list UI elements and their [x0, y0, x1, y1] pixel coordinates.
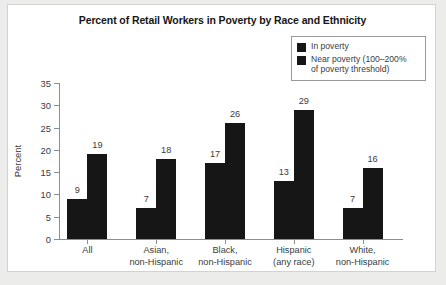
- legend-swatch-icon: [297, 43, 306, 52]
- x-axis-category-label: Asian,non-Hispanic: [129, 245, 183, 269]
- x-axis-tick: [87, 239, 88, 244]
- y-axis-tick: [54, 172, 59, 173]
- y-axis-tick-label: 5: [46, 211, 51, 222]
- bar: [225, 123, 245, 239]
- y-axis-tick-label: 0: [46, 234, 51, 245]
- y-axis-tick-label: 35: [41, 78, 51, 89]
- x-axis-category-label: White,non-Hispanic: [336, 245, 390, 269]
- x-axis-line: [59, 239, 403, 240]
- x-axis-tick: [225, 239, 226, 244]
- x-axis-tick: [156, 239, 157, 244]
- bar-value-label: 29: [299, 96, 309, 106]
- bar-value-label: 16: [367, 154, 377, 164]
- bar: [363, 168, 383, 239]
- chart-screenshot: Percent of Retail Workers in Poverty by …: [0, 0, 446, 285]
- legend-item-in-poverty: In poverty: [297, 41, 420, 52]
- chart-legend: In poverty Near poverty (100–200% of pov…: [291, 36, 426, 81]
- x-axis-label-line2: (any race): [273, 257, 314, 267]
- plot-area: Percent 05101520253035 919All718Asian,no…: [59, 83, 403, 239]
- bar: [67, 199, 87, 239]
- legend-label-line1: Near poverty (100–200%: [311, 54, 407, 64]
- legend-label: Near poverty (100–200% of poverty thresh…: [311, 54, 407, 75]
- x-axis-category-label: Hispanic(any race): [273, 245, 314, 269]
- y-axis-tick-label: 10: [41, 189, 51, 200]
- bar: [156, 159, 176, 239]
- bar-value-label: 26: [230, 109, 240, 119]
- bar: [87, 154, 107, 239]
- y-axis-tick-label: 30: [41, 100, 51, 111]
- bar-value-label: 18: [161, 145, 171, 155]
- x-axis-label-line1: Black,: [212, 245, 237, 255]
- y-axis-title: Percent: [12, 145, 23, 177]
- x-axis-label-line1: Asian,: [143, 245, 169, 255]
- y-axis-tick: [54, 150, 59, 151]
- x-axis-label-line2: non-Hispanic: [129, 257, 183, 267]
- chart-panel: Percent of Retail Workers in Poverty by …: [7, 4, 436, 272]
- x-axis-label-line1: White,: [350, 245, 376, 255]
- legend-item-near-poverty: Near poverty (100–200% of poverty thresh…: [297, 54, 420, 75]
- legend-label: In poverty: [311, 41, 349, 51]
- x-axis-tick: [363, 239, 364, 244]
- bar-value-label: 19: [92, 140, 102, 150]
- bar-value-label: 13: [279, 167, 289, 177]
- y-axis-tick: [54, 128, 59, 129]
- y-axis-tick: [54, 105, 59, 106]
- x-axis-label-line2: non-Hispanic: [198, 257, 252, 267]
- bar-value-label: 7: [144, 194, 149, 204]
- chart-title: Percent of Retail Workers in Poverty by …: [8, 14, 437, 26]
- x-axis-category-label: Black,non-Hispanic: [198, 245, 252, 269]
- legend-swatch-icon: [297, 56, 306, 65]
- bar: [343, 208, 363, 239]
- bar-value-label: 7: [350, 194, 355, 204]
- bar-value-label: 9: [75, 185, 80, 195]
- x-axis-label-line1: All: [82, 245, 92, 255]
- y-axis-tick: [54, 83, 59, 84]
- y-axis-line: [59, 83, 60, 239]
- bar: [136, 208, 156, 239]
- bar: [294, 110, 314, 239]
- x-axis-category-label: All: [82, 245, 92, 257]
- y-axis-tick: [54, 239, 59, 240]
- bar: [205, 163, 225, 239]
- y-axis-tick-label: 20: [41, 144, 51, 155]
- legend-label-line2: of poverty threshold): [311, 64, 389, 74]
- bar: [274, 181, 294, 239]
- bar-value-label: 17: [210, 149, 220, 159]
- x-axis-label-line1: Hispanic: [276, 245, 311, 255]
- x-axis-tick: [294, 239, 295, 244]
- y-axis-tick: [54, 194, 59, 195]
- x-axis-label-line2: non-Hispanic: [336, 257, 390, 267]
- y-axis-tick: [54, 217, 59, 218]
- y-axis-tick-label: 25: [41, 122, 51, 133]
- y-axis-tick-label: 15: [41, 167, 51, 178]
